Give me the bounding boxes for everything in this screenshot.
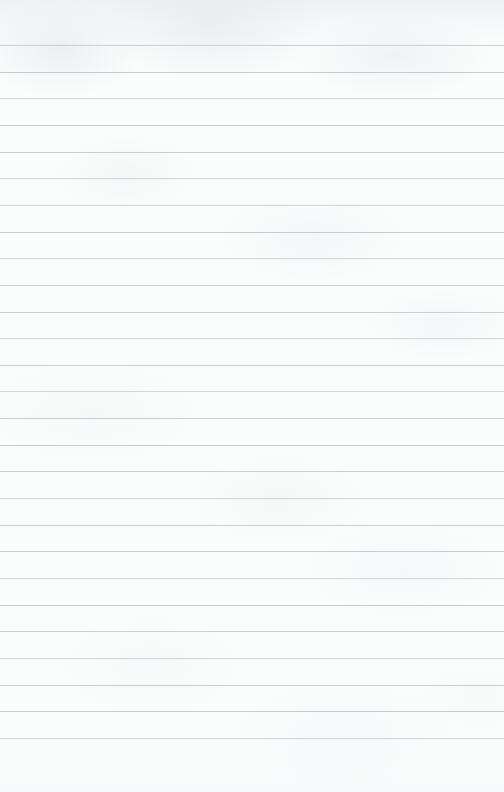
rule-line	[0, 738, 504, 739]
notepad-page	[0, 0, 504, 792]
writing-area[interactable]	[0, 45, 504, 738]
